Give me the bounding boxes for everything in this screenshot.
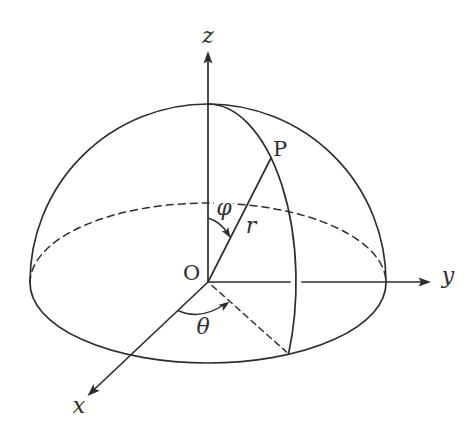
radius-line xyxy=(208,158,271,282)
x-axis-label: x xyxy=(73,393,86,418)
spherical-coordinates-diagram: z y x O P r φ θ xyxy=(0,0,476,437)
origin-label: O xyxy=(183,261,200,285)
projection-dashed-line xyxy=(212,286,287,353)
x-axis-line xyxy=(91,282,208,393)
radius-label: r xyxy=(246,213,258,238)
figure-canvas: z y x O P r φ θ xyxy=(0,0,476,437)
point-p-label: P xyxy=(273,137,287,161)
y-axis-label: y xyxy=(441,263,455,288)
theta-angle-arc xyxy=(178,304,226,315)
azimuth-angle-label: θ xyxy=(196,314,209,339)
z-axis-label: z xyxy=(201,23,214,48)
polar-angle-label: φ xyxy=(216,195,232,220)
